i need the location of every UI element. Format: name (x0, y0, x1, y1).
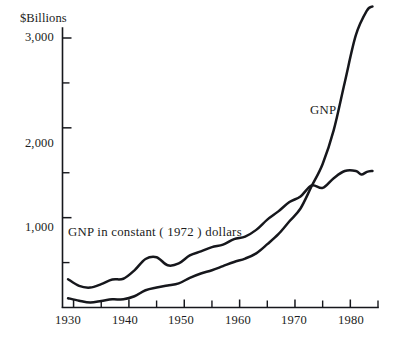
y-tick-label-3000: 3,000 (0, 31, 54, 44)
x-tick-label-1960: 1960 (216, 314, 260, 327)
series-line-gnp (68, 7, 372, 303)
x-tick-label-1940: 1940 (103, 314, 147, 327)
y-axis-unit-label: $Billions (20, 12, 67, 25)
x-tick-label-1970: 1970 (272, 314, 316, 327)
x-tick-label-1950: 1950 (159, 314, 203, 327)
y-tick-label-1000: 1,000 (0, 221, 54, 234)
annotation-gnp: GNP (310, 104, 336, 117)
gnp-line-chart: $Billions 3,000 2,000 1,000 1930 1940 19… (0, 0, 395, 344)
y-tick-label-2000: 2,000 (0, 137, 54, 150)
x-tick-label-1930: 1930 (46, 314, 90, 327)
x-tick-label-1980: 1980 (329, 314, 373, 327)
annotation-gnp-constant-dollars: GNP in constant ( 1972 ) dollars (68, 226, 242, 239)
chart-plot-area (0, 0, 395, 344)
